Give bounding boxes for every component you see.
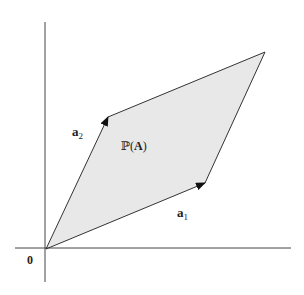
region-label: ℙ(A) bbox=[121, 140, 147, 152]
vector-a1-label: a1 bbox=[177, 206, 188, 222]
region-label-suffix: ) bbox=[143, 139, 147, 153]
region-label-matrix: A bbox=[134, 139, 143, 153]
parallelogram-diagram bbox=[0, 0, 304, 295]
origin-label: 0 bbox=[27, 254, 33, 266]
vector-a2-label-subscript: 2 bbox=[79, 131, 84, 141]
parallelogram-region bbox=[46, 52, 265, 249]
region-label-prefix: ℙ( bbox=[121, 139, 134, 153]
vector-a1-label-subscript: 1 bbox=[184, 212, 189, 222]
vector-a2-label: a2 bbox=[72, 125, 83, 141]
